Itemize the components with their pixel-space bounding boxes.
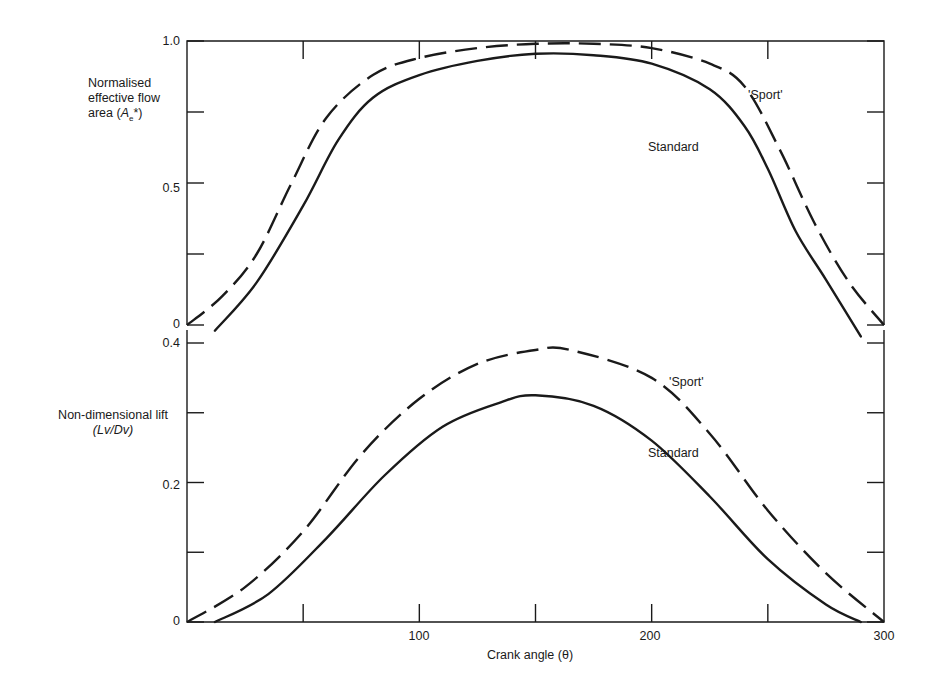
- top-ytick-05: 0.5: [140, 181, 180, 195]
- x-axis-label: Crank angle (θ): [460, 648, 600, 663]
- plot-frames: [187, 41, 884, 622]
- xtick-300: 300: [864, 629, 904, 643]
- top-ylabel-line2: effective flow: [88, 91, 160, 106]
- bottom-ylabel-line1: Non-dimensional lift: [40, 408, 186, 423]
- top-standard-label: Standard: [648, 140, 699, 155]
- top-sport-curve: [187, 43, 884, 325]
- xtick-200: 200: [630, 629, 670, 643]
- bottom-sport-label: 'Sport': [669, 375, 704, 390]
- top-ytick-0: 0: [140, 317, 180, 331]
- top-ylabel-var: A: [121, 106, 129, 120]
- data-curves: [187, 43, 884, 622]
- bottom-sport-curve: [187, 347, 884, 622]
- top-ylabel-prefix: area (: [88, 106, 121, 120]
- top-ylabel-suffix: *): [133, 106, 142, 120]
- top-sport-label: 'Sport': [748, 88, 783, 103]
- bottom-standard-curve: [215, 395, 861, 622]
- top-plot-frame: [187, 41, 884, 325]
- bottom-plot-frame: [187, 330, 884, 622]
- top-ytick-1: 1.0: [140, 34, 180, 48]
- top-y-axis-label: Normalised effective flow area (Ae*): [88, 76, 160, 126]
- bottom-standard-label: Standard: [648, 446, 699, 461]
- bottom-ytick-02: 0.2: [140, 478, 180, 492]
- xtick-100: 100: [399, 629, 439, 643]
- bottom-ytick-0: 0: [140, 614, 180, 628]
- bottom-y-axis-label: Non-dimensional lift (Lv/Dv): [40, 408, 186, 438]
- bottom-ytick-04: 0.4: [140, 336, 180, 350]
- bottom-ylabel-line2: (Lv/Dv): [40, 423, 186, 438]
- top-ylabel-line1: Normalised: [88, 76, 160, 91]
- top-ylabel-line3: area (Ae*): [88, 106, 160, 126]
- axis-ticks: [187, 41, 884, 622]
